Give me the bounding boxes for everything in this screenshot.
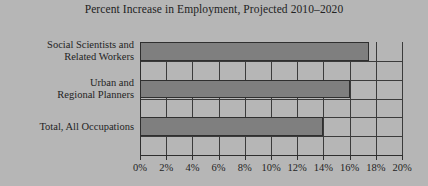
category-label-line: Total, All Occupations [8,121,134,134]
x-axis-tick [219,155,220,160]
bar [140,80,350,99]
x-axis-tick-label: 20% [382,161,422,174]
gridline-horizontal [140,61,402,62]
chart-title: Percent Increase in Employment, Projecte… [0,2,428,16]
x-axis-tick [245,155,246,160]
y-axis-line [140,42,141,156]
gridline-horizontal [140,136,402,137]
category-label-line: Related Workers [8,51,134,64]
category-label: Urban andRegional Planners [8,77,140,102]
x-axis-tick [192,155,193,160]
category-label-line: Social Scientists and [8,39,134,52]
category-label-line: Urban and [8,77,134,90]
x-axis-tick [376,155,377,160]
x-axis-tick [271,155,272,160]
x-axis-tick [140,155,141,160]
gridline-horizontal [140,99,402,100]
x-axis-tick [297,155,298,160]
category-label: Social Scientists andRelated Workers [8,39,140,64]
gridline-vertical [402,42,403,155]
x-axis-tick [350,155,351,160]
category-label-line: Regional Planners [8,89,134,102]
bar [140,117,323,136]
plot-area [140,42,402,155]
bar-chart: Percent Increase in Employment, Projecte… [0,0,428,186]
x-axis-tick [323,155,324,160]
x-axis-tick [166,155,167,160]
x-axis-tick [402,155,403,160]
category-label: Total, All Occupations [8,121,140,134]
bar [140,42,369,61]
